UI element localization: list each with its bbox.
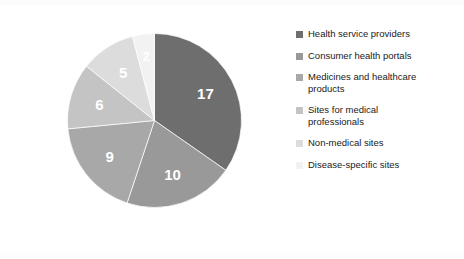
chart-legend: Health service providersConsumer health … [296,28,456,180]
caption-fragment [46,243,196,252]
legend-swatch-icon [296,74,303,81]
legend-item[interactable]: Health service providers [296,28,456,40]
pie-chart-plot-area: 17109652 [67,33,242,208]
scan-artifact-bottom [0,252,464,259]
legend-swatch-icon [296,31,303,38]
legend-swatch-icon [296,107,303,114]
pie-data-label: 10 [164,166,181,183]
scan-artifact-top [0,0,464,5]
pie-data-label: 5 [119,64,127,81]
pie-data-label: 17 [197,85,214,102]
legend-item[interactable]: Consumer health portals [296,50,456,62]
legend-item[interactable]: Medicines and healthcare products [296,71,456,94]
legend-item-label: Consumer health portals [308,50,412,62]
legend-item[interactable]: Disease-specific sites [296,159,456,171]
legend-item-label: Medicines and healthcare products [308,71,416,94]
pie-data-label: 6 [95,96,103,113]
pie-data-label: 9 [105,148,113,165]
pie-data-label: 2 [143,49,150,64]
legend-swatch-icon [296,53,303,60]
legend-item-label: Disease-specific sites [308,159,399,171]
pie-chart-figure: 17109652 Health service providersConsume… [0,0,464,259]
legend-item-label: Sites for medical professionals [308,104,378,127]
pie-svg: 17109652 [67,33,242,208]
legend-swatch-icon [296,162,303,169]
pie-slice-group [67,34,241,208]
legend-item[interactable]: Non-medical sites [296,137,456,149]
legend-swatch-icon [296,140,303,147]
legend-item[interactable]: Sites for medical professionals [296,104,456,127]
legend-item-label: Non-medical sites [308,137,384,149]
legend-item-label: Health service providers [308,28,410,40]
